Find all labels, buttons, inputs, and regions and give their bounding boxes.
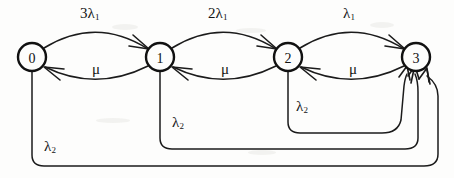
edge-label-3lambda1: 3λ1	[80, 6, 99, 21]
node-3-label: 3	[413, 51, 420, 66]
edge-label-mu-2-1: μ	[221, 62, 229, 77]
edge-label-lambda1: λ1	[343, 6, 355, 21]
node-0-label: 0	[29, 51, 36, 66]
scan-artifact	[96, 118, 130, 123]
edge-label-mu-1-0: μ	[92, 62, 100, 77]
edge-label-lambda2-1-3: λ2	[172, 115, 184, 130]
scan-artifact	[370, 22, 394, 28]
scan-artifact	[112, 24, 138, 30]
forward-edge-1-2	[172, 32, 277, 49]
node-1[interactable]: 1	[146, 43, 174, 71]
edge-label-2lambda1: 2λ1	[208, 6, 227, 21]
scan-artifact	[236, 28, 266, 33]
state-transition-diagram: 0 1 2 3 3λ1 2λ1 λ1 μ μ μ λ2 λ2 λ2	[0, 0, 454, 178]
edge-label-lambda2-2-3: λ2	[296, 99, 308, 114]
node-0[interactable]: 0	[18, 43, 46, 71]
failure-edge-1-3	[160, 66, 419, 149]
edge-label-lambda2-0-3: λ2	[44, 139, 56, 154]
scan-artifact	[248, 150, 276, 155]
node-2-label: 2	[285, 51, 292, 66]
edge-label-mu-3-2: μ	[349, 62, 357, 77]
forward-edge-2-3	[300, 32, 405, 49]
node-3[interactable]: 3	[402, 43, 430, 71]
node-1-label: 1	[157, 51, 164, 66]
forward-edge-0-1	[44, 32, 149, 49]
failure-edge-0-3	[32, 68, 438, 166]
node-2[interactable]: 2	[274, 43, 302, 71]
